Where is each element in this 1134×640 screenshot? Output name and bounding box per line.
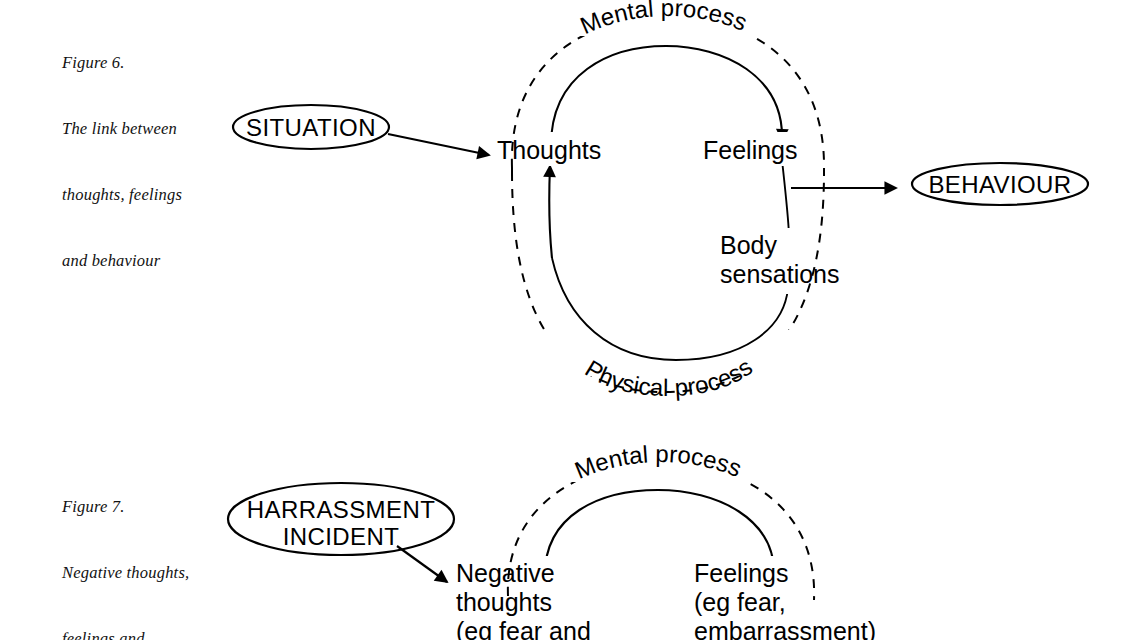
- node-thoughts-label: Thoughts: [497, 136, 601, 164]
- diagram-canvas: SITUATION BEHAVIOUR Thoughts Feelings Bo…: [0, 0, 1134, 640]
- node-negative-thoughts-line1: Negative: [456, 559, 555, 587]
- arrow-body-to-thoughts: [549, 166, 552, 258]
- label-mental-process-figure7: Mental process: [571, 440, 746, 484]
- node-negative-thoughts-line2: thoughts: [456, 588, 552, 616]
- figure6-inner-loop: [549, 46, 790, 360]
- node-body-sensations-line2: sensations: [720, 260, 840, 288]
- arrow-incident-to-negative-thoughts: [397, 546, 447, 582]
- node-negative-thoughts-line3: (eg fear and: [456, 617, 591, 640]
- node-feelings7-line2: (eg fear,: [694, 588, 786, 616]
- figure6-outer-dashed-loop: [512, 16, 824, 392]
- label-mental-process-figure6: Mental process: [576, 0, 751, 39]
- node-body-sensations-line1: Body: [720, 231, 777, 259]
- node-feelings7-line3: embarrassment): [694, 617, 876, 640]
- arrow-situation-to-thoughts: [388, 134, 489, 155]
- diagram-page: Figure 6. The link between thoughts, fee…: [0, 0, 1134, 640]
- situation-label: SITUATION: [246, 114, 376, 141]
- behaviour-label: BEHAVIOUR: [928, 171, 1071, 198]
- node-feelings7-line1: Feelings: [694, 559, 789, 587]
- figure6-situation-node[interactable]: SITUATION: [233, 105, 389, 149]
- harrassment-incident-line2: INCIDENT: [283, 523, 400, 550]
- figure7-harrassment-node[interactable]: HARRASSMENT INCIDENT: [228, 483, 454, 555]
- harrassment-incident-line1: HARRASSMENT: [247, 496, 435, 523]
- figure6-behaviour-node[interactable]: BEHAVIOUR: [912, 163, 1088, 205]
- node-feelings-label: Feelings: [703, 136, 798, 164]
